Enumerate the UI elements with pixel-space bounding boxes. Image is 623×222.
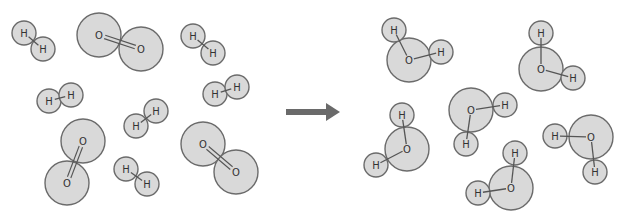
oxygen-atom-label: O <box>95 30 103 41</box>
water-molecule: OHH <box>519 21 585 91</box>
reaction-diagram: HHHHHHHHHHHHOOOOOO OHHOHHOHHOHHOHHOHH <box>0 0 623 222</box>
hydrogen-atom-label: H <box>132 121 140 132</box>
hydrogen-atom-label: H <box>39 44 47 55</box>
oxygen-atom-label: O <box>537 64 545 75</box>
hydrogen-atom-label: H <box>551 131 559 142</box>
reactants-group: HHHHHHHHHHHHOOOOOO <box>12 13 258 205</box>
hydrogen-molecule: HH <box>181 24 225 65</box>
oxygen-molecule: OO <box>181 122 258 194</box>
hydrogen-atom-label: H <box>591 167 599 178</box>
hydrogen-atom-label: H <box>152 106 160 117</box>
oxygen-atom-label: O <box>507 183 515 194</box>
hydrogen-molecule: HH <box>37 83 83 113</box>
oxygen-atom-label: O <box>587 132 595 143</box>
hydrogen-atom-label: H <box>511 148 519 159</box>
hydrogen-atom-label: H <box>437 47 445 58</box>
hydrogen-molecule: HH <box>114 157 159 196</box>
oxygen-atom-label: O <box>79 136 87 147</box>
single-bond <box>560 136 586 137</box>
oxygen-molecule: OO <box>45 119 105 205</box>
hydrogen-atom-label: H <box>390 25 398 36</box>
oxygen-atom-label: O <box>405 55 413 66</box>
hydrogen-atom-label: H <box>20 28 28 39</box>
oxygen-atom-label: O <box>63 178 71 189</box>
hydrogen-atom-label: H <box>569 73 577 84</box>
reaction-diagram-canvas: HHHHHHHHHHHHOOOOOO OHHOHHOHHOHHOHHOHH <box>0 0 623 222</box>
oxygen-atom-label: O <box>467 105 475 116</box>
hydrogen-molecule: HH <box>124 99 168 138</box>
oxygen-molecule: OO <box>77 13 163 71</box>
hydrogen-atom-label: H <box>122 164 130 175</box>
hydrogen-atom-label: H <box>233 82 241 93</box>
oxygen-atom-label: O <box>137 44 145 55</box>
hydrogen-molecule: HH <box>12 21 55 61</box>
reaction-arrow <box>286 103 340 121</box>
hydrogen-atom-label: H <box>67 90 75 101</box>
oxygen-atom-label: O <box>199 139 207 150</box>
hydrogen-atom-label: H <box>372 160 380 171</box>
hydrogen-atom-label: H <box>189 31 197 42</box>
water-molecule: OHH <box>382 18 453 82</box>
arrow-shaft <box>286 109 328 115</box>
hydrogen-atom-label: H <box>462 139 470 150</box>
oxygen-atom-label: O <box>232 167 240 178</box>
hydrogen-atom-label: H <box>537 28 545 39</box>
water-molecule: OHH <box>543 115 613 184</box>
products-group: OHHOHHOHHOHHOHHOHH <box>364 18 613 210</box>
hydrogen-atom-label: H <box>209 48 217 59</box>
hydrogen-atom-label: H <box>398 110 406 121</box>
hydrogen-atom-label: H <box>143 179 151 190</box>
hydrogen-atom-label: H <box>45 96 53 107</box>
hydrogen-atom-label: H <box>211 89 219 100</box>
hydrogen-atom-label: H <box>474 188 482 199</box>
hydrogen-atom-label: H <box>501 100 509 111</box>
arrow-head-icon <box>326 103 340 121</box>
hydrogen-molecule: HH <box>203 75 249 106</box>
oxygen-atom-label: O <box>403 144 411 155</box>
water-molecule: OHH <box>364 103 429 177</box>
